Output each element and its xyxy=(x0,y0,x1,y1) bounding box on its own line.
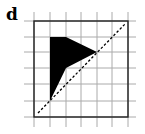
filled-polygon-shape xyxy=(50,37,97,101)
grid-diagram xyxy=(0,0,145,134)
